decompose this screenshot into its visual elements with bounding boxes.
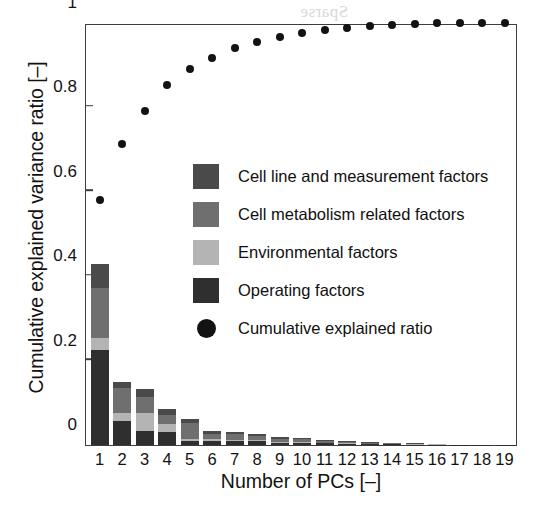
bar-segment bbox=[136, 397, 154, 413]
x-tick-label: 6 bbox=[207, 450, 216, 469]
table-row bbox=[316, 440, 334, 445]
data-point bbox=[411, 20, 419, 28]
legend-swatch-icon bbox=[193, 202, 219, 227]
bar-segment bbox=[113, 388, 131, 412]
x-tick-label: 1 bbox=[95, 450, 104, 469]
y-tick-label: 0.4 bbox=[53, 246, 77, 266]
table-row bbox=[428, 443, 446, 445]
bar-segment bbox=[136, 431, 154, 445]
x-tick-label: 10 bbox=[293, 450, 311, 469]
y-tick-label: 0.6 bbox=[53, 162, 77, 182]
bar-segment bbox=[113, 413, 131, 421]
y-tick-label: 0 bbox=[68, 415, 77, 435]
bar-segment bbox=[203, 441, 221, 445]
x-axis-title: Number of PCs [–] bbox=[85, 470, 517, 493]
legend-item: Environmental factors bbox=[193, 233, 488, 271]
table-row bbox=[473, 443, 491, 445]
x-tick-label: 15 bbox=[405, 450, 423, 469]
bar-segment bbox=[226, 441, 244, 445]
table-row bbox=[406, 443, 424, 445]
data-point bbox=[276, 33, 284, 41]
x-tick-label: 2 bbox=[117, 450, 126, 469]
data-point bbox=[208, 54, 216, 62]
data-point bbox=[231, 44, 239, 52]
x-tick-label: 9 bbox=[275, 450, 284, 469]
legend-swatch-icon bbox=[193, 278, 219, 303]
legend-label: Environmental factors bbox=[238, 243, 398, 262]
table-row bbox=[226, 432, 244, 445]
table-row bbox=[361, 442, 379, 445]
x-tick-label: 3 bbox=[140, 450, 149, 469]
table-row bbox=[136, 389, 154, 445]
bar-segment bbox=[383, 444, 401, 445]
x-tick-label: 12 bbox=[338, 450, 356, 469]
bar-segment bbox=[158, 424, 176, 432]
x-tick-label: 7 bbox=[230, 450, 239, 469]
data-point bbox=[96, 196, 104, 204]
bar-segment bbox=[271, 443, 289, 445]
data-point bbox=[343, 24, 351, 32]
table-row bbox=[451, 443, 469, 445]
data-point bbox=[118, 140, 126, 148]
bar-segment bbox=[91, 338, 109, 350]
bar-segment bbox=[113, 421, 131, 445]
table-row bbox=[113, 382, 131, 445]
bar-segment bbox=[91, 288, 109, 338]
x-tick-label: 13 bbox=[360, 450, 378, 469]
bar-segment bbox=[158, 415, 176, 424]
x-tick-label: 17 bbox=[450, 450, 468, 469]
data-point bbox=[501, 19, 509, 27]
x-tick-label: 16 bbox=[428, 450, 446, 469]
y-tick-label: 0.2 bbox=[53, 331, 77, 351]
x-tick-label: 18 bbox=[473, 450, 491, 469]
x-tick-label: 11 bbox=[316, 450, 333, 469]
data-point bbox=[366, 22, 374, 30]
y-tick-mark bbox=[86, 189, 93, 191]
legend-label: Cell metabolism related factors bbox=[238, 205, 465, 224]
legend-swatch-icon bbox=[193, 240, 219, 265]
data-point bbox=[321, 26, 329, 34]
table-row bbox=[181, 419, 199, 445]
data-point bbox=[298, 29, 306, 37]
data-point bbox=[141, 107, 149, 115]
x-tick-label: 19 bbox=[495, 450, 513, 469]
table-row bbox=[338, 441, 356, 445]
bar-segment bbox=[158, 432, 176, 445]
table-row bbox=[383, 443, 401, 445]
legend-label: Cumulative explained ratio bbox=[238, 319, 432, 338]
table-row bbox=[496, 443, 514, 445]
table-row bbox=[293, 438, 311, 445]
y-tick-label: 0.8 bbox=[53, 77, 77, 97]
bar-segment bbox=[293, 443, 311, 445]
legend-item: Cell line and measurement factors bbox=[193, 157, 488, 195]
bar-segment bbox=[316, 443, 334, 445]
legend-item: Operating factors bbox=[193, 271, 488, 309]
table-row bbox=[203, 431, 221, 445]
data-point bbox=[163, 81, 171, 89]
x-tick-label: 4 bbox=[162, 450, 171, 469]
table-row bbox=[91, 264, 109, 445]
bar-segment bbox=[181, 423, 199, 438]
legend-item: Cumulative explained ratio bbox=[193, 309, 488, 347]
bar-segment bbox=[136, 413, 154, 431]
bar-segment bbox=[338, 444, 356, 445]
legend-circle-icon bbox=[193, 319, 219, 338]
bar-segment bbox=[361, 444, 379, 445]
x-tick-label: 5 bbox=[185, 450, 194, 469]
table-row bbox=[158, 409, 176, 445]
bar-segment bbox=[91, 350, 109, 445]
bar-segment bbox=[91, 264, 109, 289]
data-point bbox=[478, 19, 486, 27]
bar-segment bbox=[113, 382, 131, 389]
chart-legend: Cell line and measurement factorsCell me… bbox=[193, 157, 488, 347]
x-tick-label: 8 bbox=[252, 450, 261, 469]
y-axis-title: Cumulative explained variance ratio [–] bbox=[25, 13, 48, 443]
table-row bbox=[271, 437, 289, 445]
data-point bbox=[433, 19, 441, 27]
chart-figure: Cumulative explained variance ratio [–] … bbox=[0, 0, 537, 513]
legend-swatch-icon bbox=[193, 164, 219, 189]
data-point bbox=[186, 65, 194, 73]
data-point bbox=[456, 19, 464, 27]
data-point bbox=[388, 21, 396, 29]
table-row bbox=[248, 434, 266, 445]
